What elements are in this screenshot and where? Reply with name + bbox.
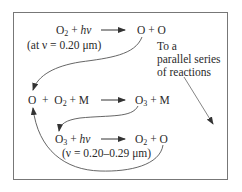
- reaction2-reactants: O + O2 + M: [28, 94, 89, 110]
- reaction1-products: O + O: [137, 24, 166, 36]
- reaction3-condition: (ν = 0.20–0.29 μm): [62, 147, 151, 159]
- side-note-line2: parallel series: [157, 53, 221, 65]
- side-note-line3: of reactions: [157, 66, 211, 78]
- reaction1-condition: (at ν = 0.20 μm): [27, 39, 101, 51]
- side-note-line1: To a: [157, 40, 177, 52]
- reaction2-products: O3 + M: [135, 94, 170, 110]
- reaction1-reactants: O2 + hν: [56, 24, 91, 40]
- parallel-series-arrow: [184, 77, 213, 124]
